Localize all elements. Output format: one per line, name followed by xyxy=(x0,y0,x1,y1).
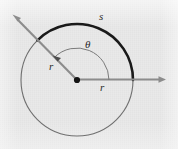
center-point-dot xyxy=(74,77,80,83)
figure-canvas xyxy=(0,0,178,149)
arc-length-label: s xyxy=(99,11,103,22)
horizontal-ray-arrowhead xyxy=(159,76,167,82)
radius-label-lower: r xyxy=(100,82,104,93)
circle-arc-figure: s θ r r xyxy=(0,0,178,149)
radius-label-upper: r xyxy=(49,61,53,72)
central-angle-label: θ xyxy=(85,39,90,50)
